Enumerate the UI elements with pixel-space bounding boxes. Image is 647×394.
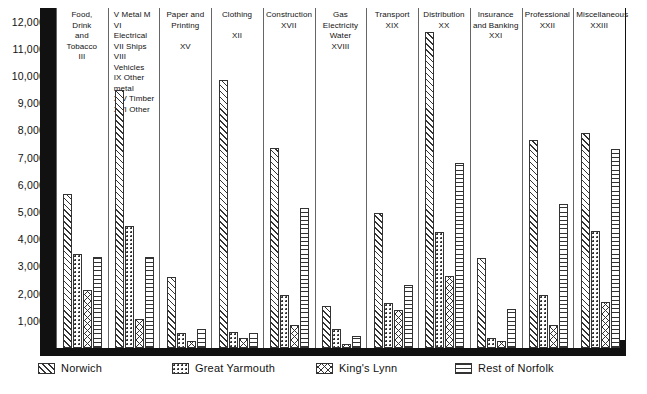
bar-insurance-and-banking-great-yarmouth [487,338,496,348]
bar-transport-rest-of-norfolk [404,285,413,348]
bar-paper-and-printing-kings-lynn [187,341,196,348]
right-frame-line [625,8,626,348]
legend-label-kings-lynn: King's Lynn [339,362,397,374]
bar-food-drink-tobacco-kings-lynn [83,290,92,348]
legend-label-norwich: Norwich [61,362,102,374]
bars-container [366,8,418,348]
x-axis-spine [40,348,626,356]
bar-metal-electrical-ships-vehicles-great-yarmouth [125,226,134,348]
bar-miscellaneous-great-yarmouth [591,231,600,348]
bars-container [211,8,263,348]
bar-distribution-rest-of-norfolk [455,163,464,348]
bar-professional-kings-lynn [549,325,558,348]
bar-food-drink-tobacco-great-yarmouth [73,254,82,348]
bar-transport-great-yarmouth [384,303,393,348]
bar-construction-great-yarmouth [280,295,289,348]
bar-group-metal-electrical-ships-vehicles: V Metal MVI ElectricalVII ShipsVIII Vehi… [108,8,160,348]
bar-professional-norwich [529,140,538,348]
bars-container [418,8,470,348]
bars-container [108,8,160,348]
legend-item-kings-lynn: King's Lynn [316,362,397,374]
bar-gas-electricity-water-norwich [322,306,331,348]
bar-group-distribution: DistributionXX [418,8,470,348]
plot-area: Food,DrinkandTobaccoIIIV Metal MVI Elect… [56,8,625,348]
bar-transport-norwich [374,213,383,348]
legend-label-rest-of-norfolk: Rest of Norfolk [478,362,554,374]
bar-transport-kings-lynn [394,310,403,348]
legend-item-rest-of-norfolk: Rest of Norfolk [455,362,554,374]
bar-paper-and-printing-rest-of-norfolk [197,329,206,348]
bar-construction-rest-of-norfolk [300,208,309,348]
bar-clothing-kings-lynn [239,338,248,348]
bar-construction-norwich [270,148,279,348]
bar-metal-electrical-ships-vehicles-rest-of-norfolk [145,257,154,348]
bar-gas-electricity-water-great-yarmouth [332,329,341,348]
legend-swatch-norwich [38,363,55,374]
bars-container [470,8,522,348]
bar-group-transport: TransportXIX [366,8,418,348]
bar-food-drink-tobacco-norwich [63,194,72,348]
bar-distribution-kings-lynn [445,276,454,348]
y-axis-spine [40,8,56,355]
bar-clothing-norwich [219,80,228,348]
bar-group-food-drink-tobacco: Food,DrinkandTobaccoIII [56,8,108,348]
bar-group-insurance-and-banking: Insuranceand BankingXXI [470,8,522,348]
bar-group-construction: ConstructionXVII [263,8,315,348]
bar-professional-great-yarmouth [539,295,548,348]
bar-group-clothing: Clothing XII [211,8,263,348]
legend-label-great-yarmouth: Great Yarmouth [195,362,275,374]
bar-clothing-rest-of-norfolk [249,333,258,348]
bars-container [263,8,315,348]
bar-gas-electricity-water-kings-lynn [342,344,351,348]
bar-construction-kings-lynn [290,325,299,348]
bar-distribution-norwich [425,32,434,348]
bar-paper-and-printing-norwich [167,277,176,348]
bar-distribution-great-yarmouth [435,232,444,348]
bar-group-paper-and-printing: Paper andPrinting XV [159,8,211,348]
bar-miscellaneous-norwich [581,133,590,348]
bars-container [159,8,211,348]
bar-insurance-and-banking-rest-of-norfolk [507,309,516,348]
chart-legend: NorwichGreat YarmouthKing's LynnRest of … [0,362,647,392]
bar-food-drink-tobacco-rest-of-norfolk [93,257,102,348]
legend-swatch-great-yarmouth [172,363,189,374]
bars-container [573,8,625,348]
legend-swatch-rest-of-norfolk [455,363,472,374]
bar-professional-rest-of-norfolk [559,204,568,348]
bar-insurance-and-banking-norwich [477,258,486,348]
bar-metal-electrical-ships-vehicles-norwich [115,90,124,348]
bar-insurance-and-banking-kings-lynn [497,341,506,348]
bar-miscellaneous-rest-of-norfolk [611,149,620,348]
bar-gas-electricity-water-rest-of-norfolk [352,336,361,348]
bar-clothing-great-yarmouth [229,332,238,348]
bar-chart: 12,00011,00010,0009,0008,0007,0006,0005,… [0,0,647,394]
bar-group-miscellaneous: MiscellaneousXXIII [573,8,625,348]
bars-container [522,8,574,348]
legend-item-great-yarmouth: Great Yarmouth [172,362,275,374]
bar-group-gas-electricity-water: GasElectricityWaterXVIII [315,8,367,348]
bars-container [315,8,367,348]
bars-container [56,8,108,348]
bar-paper-and-printing-great-yarmouth [177,333,186,348]
bar-miscellaneous-kings-lynn [601,302,610,348]
bar-metal-electrical-ships-vehicles-kings-lynn [135,319,144,348]
legend-item-norwich: Norwich [38,362,102,374]
bar-group-professional: ProfessionalXXII [522,8,574,348]
legend-swatch-kings-lynn [316,363,333,374]
